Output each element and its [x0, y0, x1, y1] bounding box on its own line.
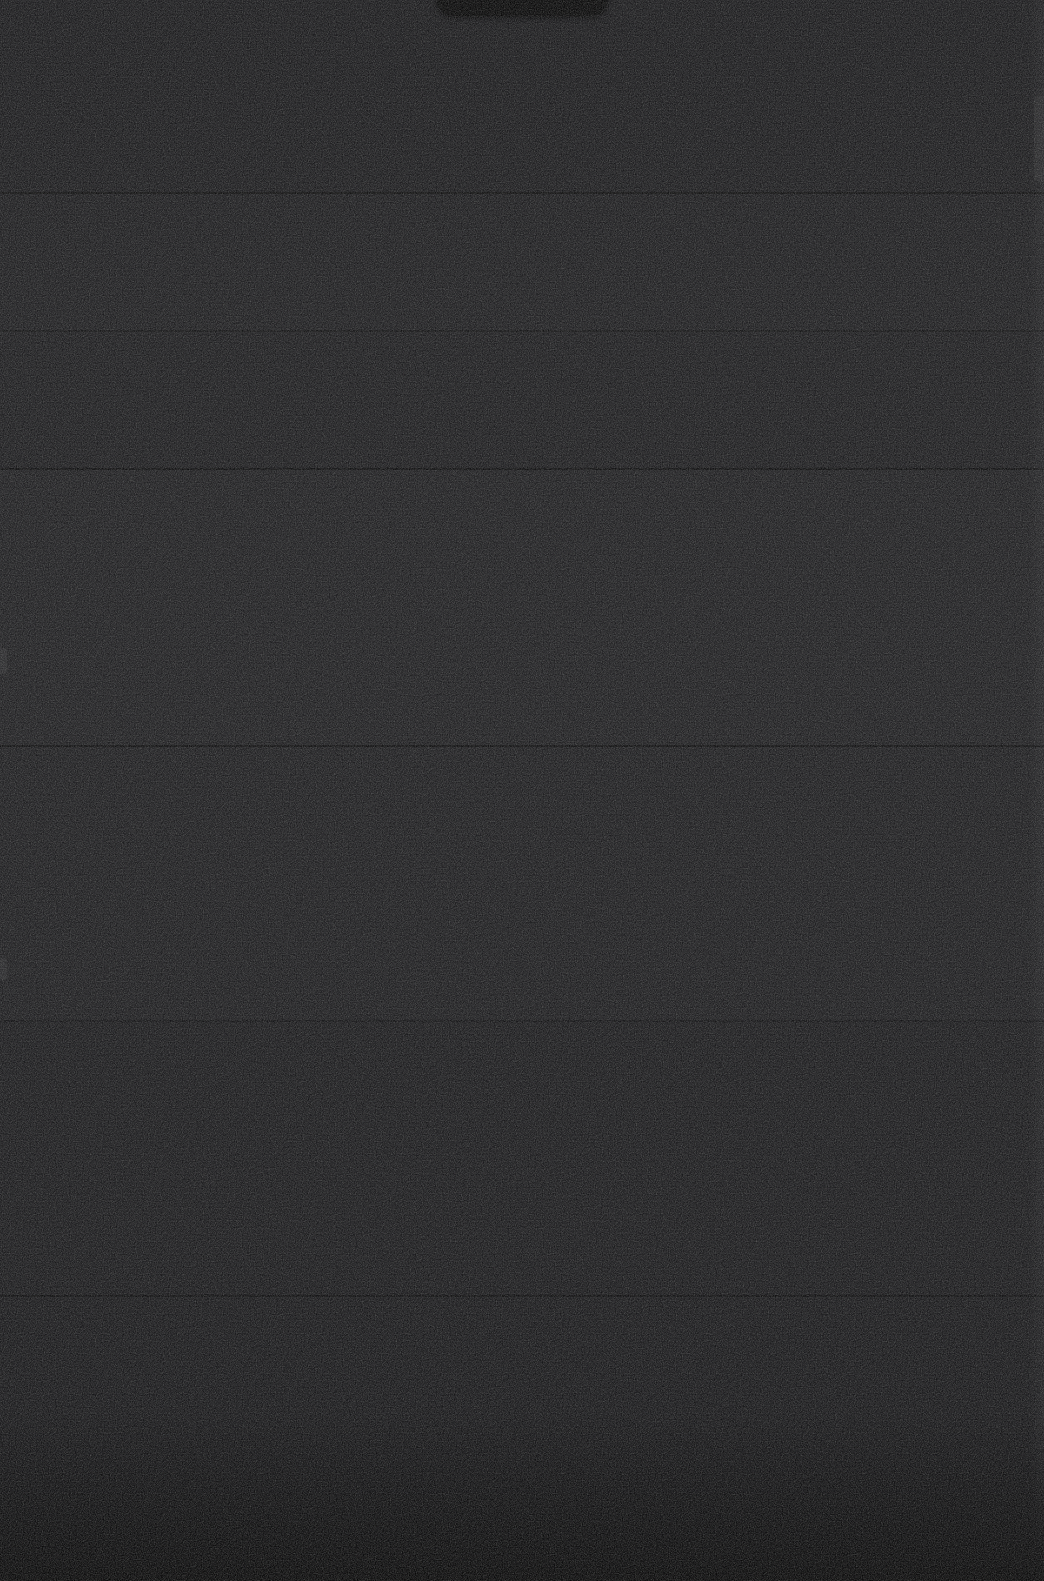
- list-section[interactable]: [0, 747, 1044, 1020]
- section-tint: [0, 1022, 1044, 1295]
- camera-notch-icon: [437, 0, 607, 16]
- section-tint: [0, 747, 1044, 1020]
- list-section[interactable]: [0, 1297, 1044, 1581]
- section-tint: [0, 0, 1044, 192]
- section-tint: [0, 470, 1044, 745]
- list-section[interactable]: [0, 470, 1044, 745]
- list-section[interactable]: [0, 1022, 1044, 1295]
- device-screen: [0, 0, 1044, 1581]
- list-section[interactable]: [0, 332, 1044, 468]
- list-section[interactable]: [0, 194, 1044, 330]
- section-tint: [0, 332, 1044, 468]
- section-tint: [0, 1297, 1044, 1581]
- content-list: [0, 0, 1044, 1581]
- list-section[interactable]: [0, 0, 1044, 192]
- section-tint: [0, 194, 1044, 330]
